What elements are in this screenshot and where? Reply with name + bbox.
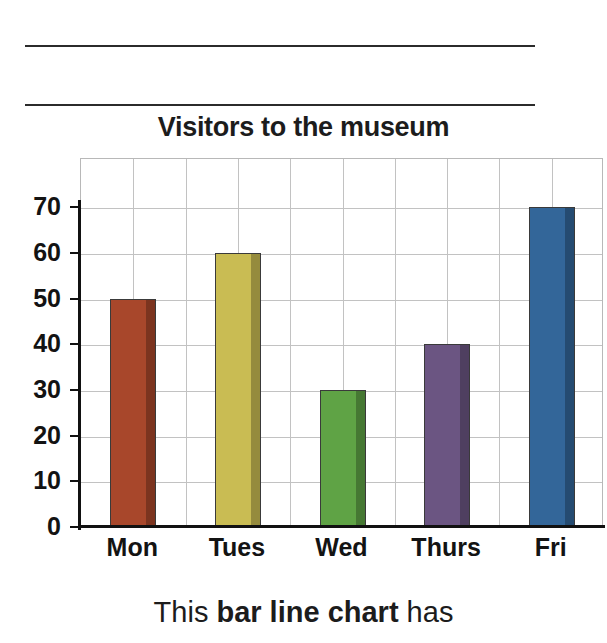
y-tick-mark [70,389,80,391]
gridline-h [81,254,602,255]
y-tick-label: 30 [1,377,61,402]
y-tick-label: 60 [1,240,61,265]
header-rule-bottom [25,104,535,106]
x-axis-label-mon: Mon [80,533,185,562]
gridline-v [186,159,187,527]
y-tick-label: 50 [1,286,61,311]
y-tick-mark [70,298,80,300]
gridline-h [81,300,602,301]
gridline-h [81,208,602,209]
y-tick-mark [70,343,80,345]
y-tick-label: 20 [1,423,61,448]
x-axis-label-fri: Fri [498,533,603,562]
y-tick-label: 40 [1,331,61,356]
chart-title: Visitors to the museum [0,112,607,143]
x-axis-line [78,525,605,528]
bar-chart [80,158,603,527]
x-axis-label-wed: Wed [289,533,394,562]
y-tick-mark [70,480,80,482]
y-tick-label: 70 [1,194,61,219]
y-tick-label: 10 [1,468,61,493]
x-axis-label-tues: Tues [185,533,290,562]
bar-shade [146,300,155,527]
bar-shade [460,345,469,526]
bar-shade [565,208,574,526]
gridline-v [290,159,291,527]
bar-thurs [424,344,470,527]
gridline-h [81,345,602,346]
bar-wed [320,390,366,527]
caption-emphasis: bar line chart [216,596,398,628]
caption-prefix: This [154,596,217,628]
bar-shade [356,391,365,526]
y-tick-mark [70,252,80,254]
y-tick-label: 0 [1,514,61,539]
bar-mon [110,299,156,528]
header-rule-top [25,45,535,47]
gridline-v [499,159,500,527]
gridline-v [395,159,396,527]
bar-tues [215,253,261,527]
y-tick-mark [70,206,80,208]
chart-caption: This bar line chart has [0,596,607,629]
y-tick-mark [70,435,80,437]
bar-fri [529,207,575,527]
x-axis-label-thurs: Thurs [394,533,499,562]
caption-suffix: has [399,596,454,628]
bar-shade [251,254,260,526]
plot-area [80,158,603,527]
y-tick-mark [70,526,80,528]
